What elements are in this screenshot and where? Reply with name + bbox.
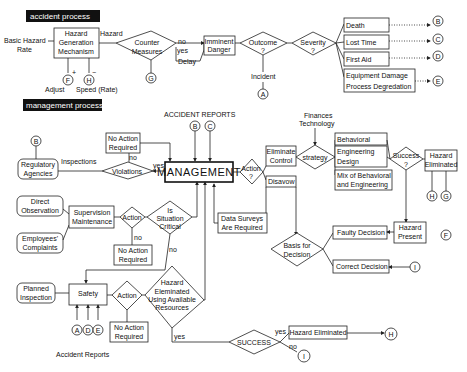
outcome-first-aid-box: First Aid (344, 52, 389, 66)
svg-text:Mechanism: Mechanism (58, 48, 94, 55)
svg-text:no: no (169, 246, 177, 253)
strategy-diamond: strategy (296, 145, 335, 169)
svg-text:yes: yes (275, 328, 286, 336)
svg-text:Hazard: Hazard (65, 30, 88, 37)
svg-text:Are Required: Are Required (221, 224, 262, 232)
mix-box: Mix of Behavioral and Engineering (335, 170, 392, 190)
no-action-required-top: No Action Required (106, 133, 140, 153)
finances-label: Finances (304, 112, 333, 119)
svg-text:Basic Hazard: Basic Hazard (4, 37, 46, 44)
svg-text:yes: yes (174, 333, 185, 341)
connector-c-top: C (433, 34, 443, 44)
svg-text:E: E (96, 327, 101, 334)
svg-text:Correct Decision: Correct Decision (336, 263, 388, 270)
connector-b-mgmt: B (190, 121, 200, 131)
svg-text:Severity: Severity (300, 39, 326, 47)
regulatory-agencies: Regulatory Agencies (18, 159, 58, 179)
success-diamond: Success ? (390, 147, 423, 170)
accident-reports-bottom-label: Accident Reports (56, 351, 110, 359)
svg-text:Decision: Decision (284, 251, 311, 258)
svg-text:Required: Required (109, 144, 138, 152)
svg-text:Complaints: Complaints (22, 244, 58, 252)
svg-text:F: F (444, 232, 448, 239)
connector-e-safety: E (93, 325, 103, 335)
delay-label: Delay (178, 58, 196, 66)
svg-text:SUCCESS: SUCCESS (237, 339, 271, 346)
svg-text:MANAGEMENT: MANAGEMENT (157, 166, 241, 178)
is-situation-critical-diamond: Is Situation Critical (147, 201, 192, 234)
svg-text:Faulty Decision: Faulty Decision (337, 229, 385, 237)
safety-box: Safety (69, 284, 107, 305)
svg-text:management process: management process (26, 101, 103, 110)
svg-text:Is: Is (167, 207, 173, 214)
svg-text:Resources: Resources (155, 304, 189, 311)
svg-text:Agencies: Agencies (24, 170, 53, 178)
svg-text:Supervision: Supervision (74, 209, 111, 217)
svg-text:?: ? (261, 47, 265, 54)
connector-a-safety: A (72, 325, 82, 335)
engineering-design-box: Engineering Design (335, 146, 387, 167)
hazard-eliminated-using-resources-diamond: Hazard Eleminated Using Available Resour… (145, 266, 204, 328)
counter-measures-diamond: Counter Measures (116, 31, 176, 60)
svg-text:Basis for: Basis for (283, 242, 311, 249)
svg-text:Rate: Rate (17, 46, 32, 53)
planned-inspection: Planned Inspection (17, 283, 55, 303)
accident-reports-title: ACCIDENT REPORTS (164, 111, 236, 118)
violations-diamond: Violations (102, 162, 153, 179)
direct-observation: Direct Observation (17, 196, 63, 216)
svg-text:Hazard: Hazard (430, 152, 453, 159)
svg-text:Generation: Generation (59, 39, 94, 46)
connector-b-regulatory: B (31, 136, 41, 146)
svg-text:?: ? (249, 173, 253, 180)
connector-g: G (146, 73, 156, 83)
success-final-diamond: SUCCESS (229, 330, 280, 354)
connector-b-top: B (433, 16, 443, 26)
basic-hazard-rate-label: Basic Hazard Rate (4, 37, 46, 53)
connector-f: F (63, 75, 73, 85)
incident-label: Incident (251, 73, 276, 80)
connector-d-safety: D (83, 325, 93, 335)
svg-text:B: B (34, 138, 39, 145)
svg-text:Measures: Measures (132, 48, 163, 55)
svg-text:Control: Control (270, 157, 293, 164)
svg-text:Regulatory: Regulatory (21, 161, 55, 169)
behavioral-box: Behavioral (335, 133, 387, 145)
outcome-lost-time-box: Lost Time (344, 35, 389, 49)
technology-label: Technology (299, 120, 335, 128)
outcome-diamond: Outcome ? (240, 32, 287, 55)
svg-text:no: no (129, 154, 137, 161)
employees-complaints: Employees' Complaints (17, 233, 63, 253)
svg-text:Safety: Safety (78, 290, 98, 298)
svg-text:B: B (193, 123, 198, 130)
svg-text:Violations: Violations (112, 168, 143, 175)
hazard-present-box: Hazard Present (394, 222, 426, 243)
imminent-danger-box: Imminent Danger (204, 36, 235, 55)
svg-text:H: H (388, 331, 393, 338)
svg-text:?: ? (404, 161, 408, 168)
svg-text:C: C (207, 123, 212, 130)
correct-decision-box: Correct Decision (333, 260, 389, 273)
svg-text:Action: Action (241, 165, 261, 172)
severity-diamond: Severity ? (292, 32, 336, 55)
svg-text:Danger: Danger (208, 46, 232, 54)
svg-text:D: D (85, 327, 90, 334)
connector-a: A (258, 89, 268, 99)
connector-e-top: E (433, 76, 443, 86)
svg-text:No Action: No Action (118, 247, 148, 254)
svg-text:A: A (75, 327, 80, 334)
svg-text:Required: Required (115, 333, 144, 341)
svg-text:Disavow: Disavow (268, 178, 295, 185)
svg-text:Engineering: Engineering (337, 148, 374, 156)
data-surveys-box: Data Surveys Are Required (218, 213, 267, 233)
svg-text:Data Surveys: Data Surveys (221, 215, 264, 223)
no-action-required-mid: No Action Required (114, 245, 152, 265)
svg-text:G: G (148, 75, 153, 82)
management-process-header: management process (23, 99, 103, 111)
svg-text:F: F (66, 77, 70, 84)
connector-d-top: D (433, 51, 443, 61)
inspections-label: Inspections (61, 158, 97, 166)
action-diamond-supervision: Action (120, 207, 145, 228)
svg-text:no: no (289, 343, 297, 350)
svg-text:Death: Death (346, 22, 365, 29)
svg-text:−: − (92, 69, 96, 76)
